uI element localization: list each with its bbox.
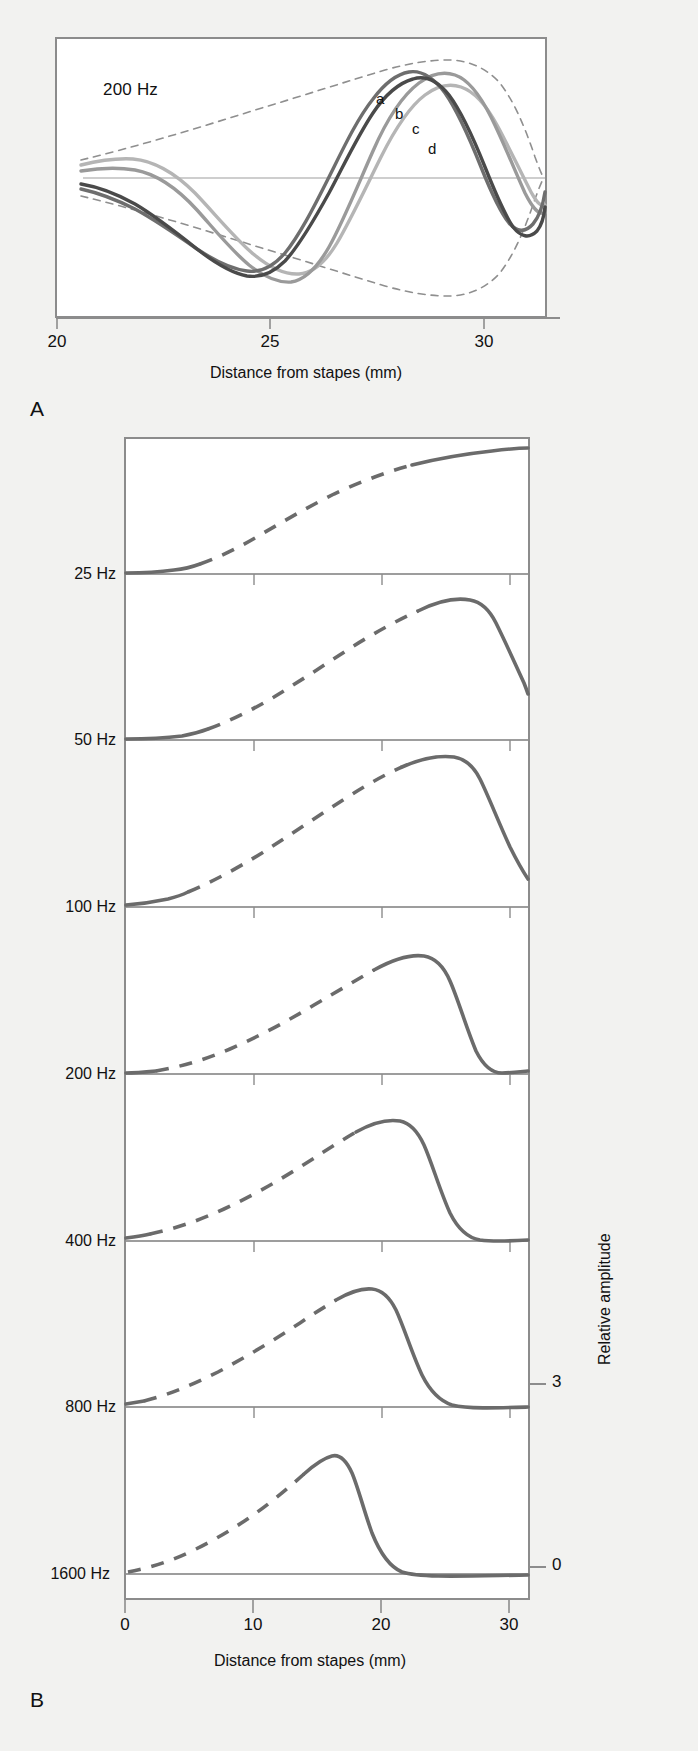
panel-b-curve-25hz-solid-end	[412, 448, 528, 465]
panel-a-letter: A	[30, 397, 44, 421]
panel-b-curve-800hz-peak	[336, 1289, 528, 1408]
panel-b-x-axis-title: Distance from stapes (mm)	[170, 1652, 450, 1670]
panel-b-curve-1600hz-dashed	[128, 1474, 304, 1572]
panel-b-xtick-label-20: 20	[351, 1615, 411, 1635]
panel-b-xtick-label-30: 30	[479, 1615, 539, 1635]
panel-a-curve-label-d: d	[428, 140, 436, 157]
panel-a-xtick-label-20: 20	[27, 332, 87, 352]
panel-b-curve-400hz-dashed	[150, 1132, 356, 1234]
panel-b-curves	[124, 437, 530, 1600]
panel-b-curve-200hz-peak	[374, 956, 528, 1073]
panel-b-xtick-label-10: 10	[223, 1615, 283, 1635]
panel-b-curve-1600hz-peak	[304, 1456, 528, 1577]
panel-b-ytick-mark-3	[528, 1382, 548, 1386]
panel-b-freq-label-25hz: 25 Hz	[24, 565, 116, 583]
panel-a-xtick-label-25: 25	[240, 332, 300, 352]
panel-b-xtick-label-0: 0	[95, 1615, 155, 1635]
panel-b-curve-800hz-solid-start	[126, 1401, 144, 1404]
panel-b-curve-400hz-peak	[356, 1120, 528, 1241]
panel-a-curve-label-a: a	[376, 90, 384, 107]
panel-b-freq-label-100hz: 100 Hz	[24, 898, 116, 916]
panel-b-curve-100hz-solid-start	[126, 892, 188, 905]
panel-b-curve-200hz-solid-start	[126, 1071, 156, 1073]
panel-a-curve-b	[81, 78, 545, 277]
panel-a-x-axis-title: Distance from stapes (mm)	[166, 364, 446, 382]
panel-a-envelope-lower	[81, 177, 544, 296]
panel-b-ytick-label-3: 3	[552, 1372, 561, 1392]
panel-b: 25 Hz 50 Hz 100 Hz 200 Hz 400 Hz 800 Hz …	[0, 430, 698, 1751]
panel-b-curve-25hz-dashed	[200, 465, 412, 564]
panel-b-y-axis-title: Relative amplitude	[596, 1233, 614, 1365]
panel-b-freq-label-800hz: 800 Hz	[24, 1398, 116, 1416]
panel-a-frequency-annotation: 200 Hz	[103, 80, 158, 100]
panel-b-curve-400hz-solid-start	[126, 1234, 150, 1238]
panel-b-curve-200hz-dashed	[156, 970, 374, 1071]
panel-b-freq-label-50hz: 50 Hz	[24, 731, 116, 749]
panel-b-freq-label-200hz: 200 Hz	[24, 1065, 116, 1083]
panel-b-letter: B	[30, 1688, 44, 1712]
panel-b-curve-100hz-dashed	[188, 767, 402, 892]
panel-a-curve-a	[81, 72, 545, 272]
panel-b-ytick-mark-0	[528, 1565, 548, 1569]
panel-a-xtick-label-30: 30	[454, 332, 514, 352]
panel-a-x-axis	[0, 310, 620, 370]
figure-root: 200 Hz a b c d 20 25 30 Distance from st…	[0, 0, 698, 1751]
panel-b-freq-label-400hz: 400 Hz	[24, 1232, 116, 1250]
panel-a-curve-label-b: b	[395, 105, 403, 122]
panel-a-curve-d	[81, 85, 545, 274]
panel-b-curve-100hz-peak	[402, 756, 528, 879]
panel-a: 200 Hz a b c d 20 25 30 Distance from st…	[0, 0, 698, 430]
panel-b-curve-50hz-dashed	[208, 611, 418, 729]
panel-b-curve-50hz-solid-start	[126, 729, 208, 739]
panel-b-curve-50hz-peak	[418, 599, 528, 694]
panel-b-curve-25hz-solid-start	[126, 564, 200, 573]
panel-b-curve-800hz-dashed	[144, 1300, 336, 1401]
panel-b-ytick-label-0: 0	[552, 1555, 561, 1575]
panel-b-freq-label-1600hz: 1600 Hz	[18, 1565, 110, 1583]
panel-a-curve-label-c: c	[412, 120, 420, 137]
